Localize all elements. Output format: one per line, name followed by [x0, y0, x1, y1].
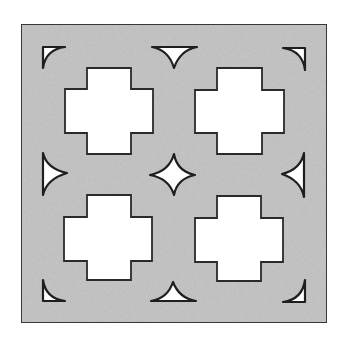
- pattern-figure: [0, 0, 352, 355]
